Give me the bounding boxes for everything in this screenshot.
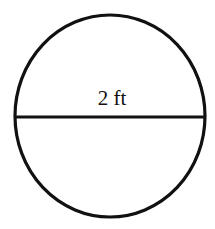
circle-diagram: 2 ft [0,0,215,229]
circle-figure: 2 ft [0,0,215,229]
diameter-label: 2 ft [98,86,127,110]
